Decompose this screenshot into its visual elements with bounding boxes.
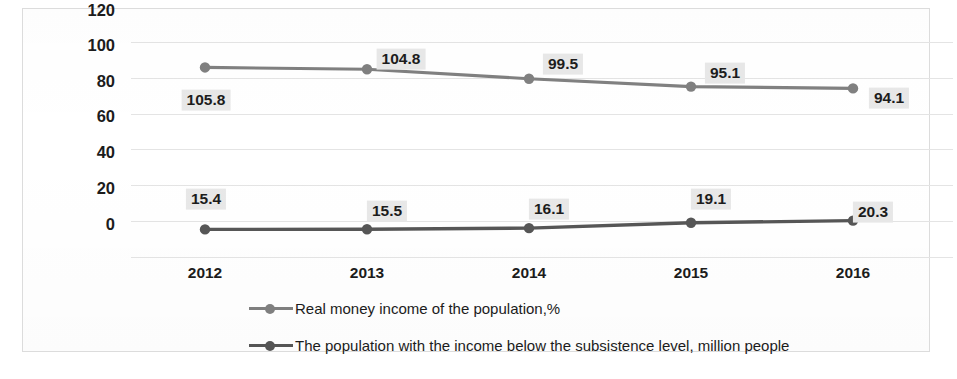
legend-item-population-below-subsistence[interactable]: The population with the income below the…: [249, 334, 889, 356]
data-label-s0-2016: 94.1: [869, 88, 909, 109]
y-axis-tick-60: 60: [97, 107, 115, 126]
y-axis-tick-40: 40: [97, 143, 115, 162]
y-axis-tick-120: 120: [87, 1, 115, 20]
x-axis-tick-2012: 2012: [188, 264, 222, 282]
data-label-s1-2014: 16.1: [529, 199, 569, 220]
data-label-s1-2016: 20.3: [853, 202, 893, 223]
y-axis-tick-100: 100: [87, 36, 115, 55]
x-axis: 2012 2013 2014 2015 2016: [131, 264, 953, 292]
y-axis-tick-0: 0: [106, 215, 115, 234]
chart-frame: 120 100 80 60 40 20 0 105.8: [22, 8, 930, 352]
data-point: [362, 224, 372, 234]
x-axis-tick-2014: 2014: [512, 264, 546, 282]
x-axis-tick-2015: 2015: [674, 264, 708, 282]
plot-area: 105.8 104.8 99.5 95.1 94.1 15.4 15.5 16.…: [131, 42, 953, 257]
data-label-s1-2012: 15.4: [186, 189, 226, 210]
data-point: [200, 224, 210, 234]
data-point: [200, 62, 210, 72]
data-label-s0-2015: 95.1: [705, 63, 745, 84]
chart-legend: Real money income of the population,% Th…: [249, 297, 889, 371]
data-label-s1-2015: 19.1: [691, 189, 731, 210]
data-point: [686, 81, 696, 91]
data-point: [524, 223, 534, 233]
data-label-s0-2013: 104.8: [377, 49, 426, 70]
legend-marker-icon: [249, 338, 293, 352]
x-axis-tick-2016: 2016: [836, 264, 870, 282]
data-point: [848, 83, 858, 93]
data-label-s0-2014: 99.5: [543, 54, 583, 75]
gridline-0: [131, 257, 953, 258]
legend-marker-icon: [249, 301, 293, 315]
y-axis-tick-20: 20: [97, 179, 115, 198]
legend-label: The population with the income below the…: [295, 337, 789, 354]
data-point: [524, 74, 534, 84]
data-point: [686, 218, 696, 228]
legend-item-real-money-income[interactable]: Real money income of the population,%: [249, 297, 889, 319]
y-axis: 120 100 80 60 40 20 0: [23, 9, 123, 351]
data-label-s1-2013: 15.5: [367, 201, 407, 222]
data-label-s0-2012: 105.8: [182, 90, 231, 111]
x-axis-tick-2013: 2013: [350, 264, 384, 282]
legend-label: Real money income of the population,%: [295, 300, 560, 317]
y-axis-tick-80: 80: [97, 72, 115, 91]
data-point: [362, 64, 372, 74]
line-chart: 120 100 80 60 40 20 0 105.8: [0, 0, 957, 379]
